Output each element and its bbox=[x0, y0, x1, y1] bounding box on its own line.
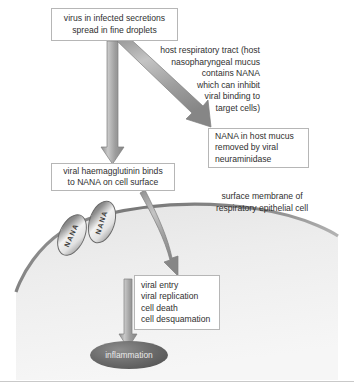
box-haem-line-1: viral haemagglutinin binds bbox=[63, 166, 162, 177]
nana-receptor-1-label: NANA bbox=[63, 222, 81, 249]
inflammation-label: inflammation bbox=[105, 350, 152, 360]
label-surface-line-2: respiratory epithelial cell bbox=[196, 203, 328, 215]
label-host-line-1: host respiratory tract (host bbox=[148, 45, 260, 57]
label-host-line-4: which can inhibit bbox=[148, 80, 260, 92]
bottom-divider bbox=[0, 381, 354, 382]
arrow-virus-to-haemagglutinin bbox=[101, 41, 124, 164]
box-viral-haemagglutinin: viral haemagglutinin binds to NANA on ce… bbox=[51, 163, 175, 191]
inflammation-node: inflammation bbox=[90, 341, 168, 369]
box-entry-line-2: viral replication bbox=[141, 291, 198, 302]
box-entry-line-1: viral entry bbox=[141, 280, 178, 291]
label-surface-membrane: surface membrane of respiratory epitheli… bbox=[196, 191, 328, 214]
box-viral-entry-outcomes: viral entry viral replication cell death… bbox=[134, 275, 220, 330]
label-host-line-6: target cells) bbox=[148, 103, 260, 115]
box-nana-mucus-line-3: neuraminidase bbox=[215, 154, 271, 165]
box-virus-line-2: spread in fine droplets bbox=[72, 25, 157, 36]
box-nana-mucus-line-1: NANA in host mucus bbox=[215, 131, 294, 142]
box-nana-mucus-line-2: removed by viral bbox=[215, 142, 278, 153]
box-entry-line-4: cell desquamation bbox=[141, 314, 210, 325]
label-host-respiratory-tract: host respiratory tract (host nasopharyng… bbox=[148, 45, 260, 115]
nana-receptor-2-label: NANA bbox=[94, 209, 110, 236]
label-host-line-5: viral binding to bbox=[148, 91, 260, 103]
label-host-line-3: contains NANA bbox=[148, 68, 260, 80]
label-host-line-2: nasopharyngeal mucus bbox=[148, 57, 260, 69]
box-haem-line-2: to NANA on cell surface bbox=[68, 177, 159, 188]
box-virus-line-1: virus in infected secretions bbox=[64, 13, 165, 24]
label-surface-line-1: surface membrane of bbox=[196, 191, 328, 203]
box-entry-line-3: cell death bbox=[141, 303, 178, 314]
box-nana-in-host-mucus: NANA in host mucus removed by viral neur… bbox=[208, 128, 309, 168]
box-virus-in-secretions: virus in infected secretions spread in f… bbox=[51, 8, 178, 41]
